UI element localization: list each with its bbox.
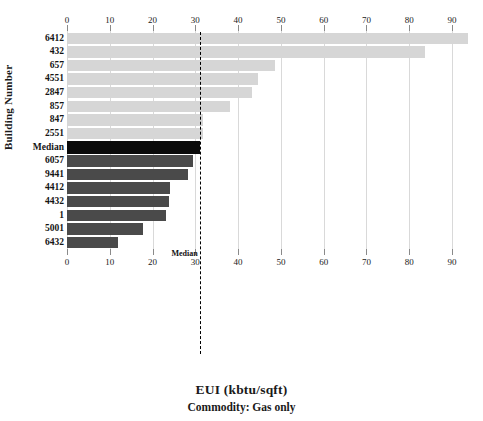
gridline [452,31,453,249]
x-tick-bottom [238,249,239,255]
x-tick-label-bottom: 20 [138,257,168,267]
y-tick-label-847: 847 [2,114,64,125]
y-tick-label-4432: 4432 [2,196,64,207]
x-tick-label-top: 0 [52,15,82,25]
bar-432[interactable] [67,46,425,57]
bar-6057[interactable] [67,155,193,166]
bar-6412[interactable] [67,33,468,44]
x-tick-top [67,25,68,31]
x-tick-top [409,25,410,31]
x-tick-bottom [281,249,282,255]
bar-6432[interactable] [67,237,118,248]
x-tick-label-top: 60 [309,15,339,25]
bar-5001[interactable] [67,223,143,234]
bar-657[interactable] [67,60,275,71]
x-tick-top [452,25,453,31]
x-tick-top [195,25,196,31]
x-tick-top [110,25,111,31]
median-annotation-label: Median [160,249,198,258]
bar-9441[interactable] [67,169,188,180]
x-tick-bottom [110,249,111,255]
bar-row [67,31,452,46]
x-tick-label-top: 90 [437,15,467,25]
x-tick-label-bottom: 60 [309,257,339,267]
x-tick-bottom [452,249,453,255]
bar-row [67,222,452,237]
chart-subtitle: Commodity: Gas only [0,401,483,413]
y-tick-label-1: 1 [2,210,64,221]
y-tick-label-4412: 4412 [2,182,64,193]
bar-row [67,126,452,141]
median-reference-line [200,32,201,354]
bar-median[interactable] [67,141,200,154]
x-tick-top [366,25,367,31]
bar-row [67,99,452,114]
eui-gas-only-bar-chart: Building Number 641243265745512847857847… [0,0,483,421]
x-tick-top [281,25,282,31]
y-tick-label-4551: 4551 [2,73,64,84]
bar-row [67,72,452,87]
x-tick-label-bottom: 10 [95,257,125,267]
x-tick-label-top: 20 [138,15,168,25]
x-tick-label-bottom: 30 [180,257,210,267]
x-tick-bottom [153,249,154,255]
y-axis-tick-labels: 6412432657455128478578472551Median605794… [0,31,64,249]
bar-1[interactable] [67,210,166,221]
x-tick-label-top: 40 [223,15,253,25]
bar-row [67,181,452,196]
x-tick-label-top: 80 [394,15,424,25]
y-tick-label-9441: 9441 [2,169,64,180]
y-tick-label-median: Median [2,142,64,153]
x-tick-label-bottom: 0 [52,257,82,267]
x-tick-label-top: 50 [266,15,296,25]
y-tick-label-432: 432 [2,46,64,57]
plot-area [67,31,452,249]
y-tick-label-857: 857 [2,101,64,112]
x-tick-top [238,25,239,31]
bar-row [67,154,452,169]
y-tick-label-5001: 5001 [2,223,64,234]
bar-row [67,235,452,250]
bar-4432[interactable] [67,196,169,207]
x-tick-bottom [409,249,410,255]
bar-857[interactable] [67,101,230,112]
y-tick-label-2847: 2847 [2,87,64,98]
x-tick-bottom [324,249,325,255]
bar-row [67,58,452,73]
bar-2847[interactable] [67,87,252,98]
x-tick-top [153,25,154,31]
bar-row [67,208,452,223]
bar-4412[interactable] [67,182,170,193]
x-tick-label-bottom: 40 [223,257,253,267]
bar-row [67,45,452,60]
x-tick-top [324,25,325,31]
x-tick-label-top: 70 [351,15,381,25]
bar-4551[interactable] [67,73,258,84]
x-tick-label-top: 30 [180,15,210,25]
bar-847[interactable] [67,114,203,125]
y-tick-label-2551: 2551 [2,128,64,139]
y-tick-label-6057: 6057 [2,155,64,166]
x-tick-label-bottom: 50 [266,257,296,267]
y-tick-label-6432: 6432 [2,237,64,248]
bar-row [67,195,452,210]
y-tick-label-657: 657 [2,60,64,71]
y-tick-label-6412: 6412 [2,33,64,44]
bar-2551[interactable] [67,128,203,139]
bar-row [67,113,452,128]
x-tick-label-bottom: 90 [437,257,467,267]
x-tick-bottom [366,249,367,255]
x-tick-label-bottom: 70 [351,257,381,267]
x-tick-bottom [67,249,68,255]
x-tick-label-bottom: 80 [394,257,424,267]
bar-row [67,86,452,101]
x-axis-title: EUI (kbtu/sqft) [0,382,483,398]
x-tick-label-top: 10 [95,15,125,25]
bar-row [67,167,452,182]
bar-row [67,140,452,155]
